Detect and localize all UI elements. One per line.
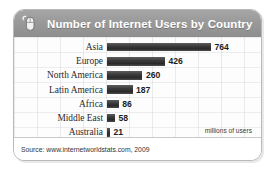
source-text: Source: www.internetworldstats.com, 2009 [21,146,149,153]
chart-plot-area: Asia 764 Europe 426 North America [14,37,261,138]
bar-value-north-america: 260 [146,70,160,80]
bar-europe [107,57,165,66]
bar-label-north-america: North America [14,70,107,80]
chart-screenshot: Number of Internet Users by Country Asia… [0,0,277,172]
bar-track-middle-east: 58 [107,111,261,125]
bar-value-latin-america: 187 [136,85,150,95]
chart-header: Number of Internet Users by Country [14,10,261,37]
bar-track-europe: 426 [107,54,261,68]
bar-label-africa: Africa [14,99,107,109]
bar-row-europe: Europe 426 [14,54,261,68]
chart-title: Number of Internet Users by Country [47,18,252,30]
bar-row-middle-east: Middle East 58 [14,111,261,125]
chart-footer: Source: www.internetworldstats.com, 2009 [14,137,261,160]
bar-rows: Asia 764 Europe 426 North America [14,40,261,139]
bar-label-middle-east: Middle East [14,113,107,123]
bar-value-australia: 21 [113,127,123,137]
chart-card: Number of Internet Users by Country Asia… [13,9,262,161]
bar-value-asia: 764 [215,42,229,52]
bar-label-europe: Europe [14,56,107,66]
bar-value-europe: 426 [169,56,183,66]
bar-asia [107,43,211,52]
units-annotation: millions of users [205,127,252,134]
bar-row-north-america: North America 260 [14,68,261,82]
bar-track-asia: 764 [107,40,261,54]
bar-track-africa: 86 [107,97,261,111]
computer-mouse-icon [16,10,43,37]
bar-africa [107,100,119,109]
bar-track-latin-america: 187 [107,83,261,97]
bar-track-north-america: 260 [107,68,261,82]
bar-row-africa: Africa 86 [14,97,261,111]
bar-row-asia: Asia 764 [14,40,261,54]
bar-north-america [107,71,142,80]
bar-latin-america [107,85,133,94]
bar-value-middle-east: 58 [118,113,128,123]
bar-label-latin-america: Latin America [14,85,107,95]
bar-label-asia: Asia [14,42,107,52]
bar-australia [107,128,110,137]
bar-value-africa: 86 [122,99,132,109]
bar-middle-east [107,114,115,123]
bar-row-latin-america: Latin America 187 [14,83,261,97]
bar-label-australia: Australia [14,127,107,137]
